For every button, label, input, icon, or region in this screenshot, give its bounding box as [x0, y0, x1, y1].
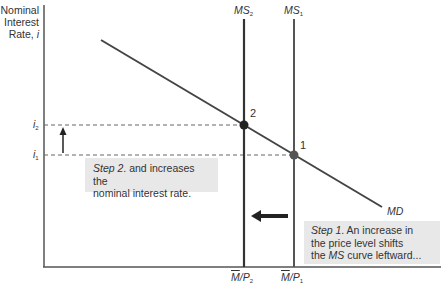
ms2-label: MS2 — [234, 4, 253, 20]
ms1-label: MS1 — [284, 4, 303, 20]
equilibrium-point-2 — [240, 121, 249, 130]
mp2-tick-label: M/P2 — [231, 271, 253, 287]
y-axis-label: Nominal Interest Rate, i — [0, 4, 39, 40]
left-arrow-icon — [251, 210, 288, 222]
md-label: MD — [387, 205, 403, 217]
point-2-label: 2 — [250, 107, 256, 119]
step1-annotation: Step 1. An increase in the price level s… — [304, 221, 440, 264]
step2-annotation: Step 2. and increases the nominal intere… — [85, 158, 218, 192]
equilibrium-point-1 — [290, 151, 299, 160]
up-arrow-icon — [60, 127, 67, 153]
point-1-label: 1 — [300, 139, 306, 151]
i1-tick-label: i1 — [33, 148, 39, 164]
i2-tick-label: i2 — [33, 118, 39, 134]
mp1-tick-label: M/P1 — [281, 271, 303, 287]
